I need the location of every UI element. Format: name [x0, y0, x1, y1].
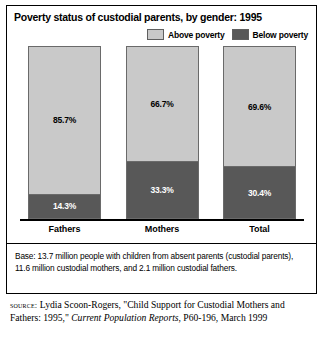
base-note: Base: 13.7 million people with children … [15, 251, 308, 274]
bar-value-fathers-below: 14.3% [53, 201, 76, 211]
source-publication-title: Current Population Reports [71, 312, 178, 323]
legend-label-above-poverty: Above poverty [168, 30, 224, 40]
bar-value-mothers-below: 33.3% [150, 185, 173, 195]
category-label-total: Total [223, 224, 296, 234]
axis-baseline [20, 219, 304, 221]
bar-value-total-above: 69.6% [248, 102, 271, 112]
bar-group: 85.7% 14.3% 66.7% 33.3% 69 [28, 46, 296, 219]
bar-mothers: 66.7% 33.3% [126, 46, 199, 219]
note-divider [7, 243, 316, 244]
bar-total: 69.6% 30.4% [223, 46, 296, 219]
bar-segment-fathers-above: 85.7% [29, 47, 100, 194]
bar-segment-total-above: 69.6% [224, 47, 295, 166]
chart-panel: Poverty status of custodial parents, by … [6, 5, 317, 294]
legend-label-below-poverty: Below poverty [253, 30, 309, 40]
category-axis-labels: Fathers Mothers Total [28, 224, 296, 234]
bar-fathers: 85.7% 14.3% [28, 46, 101, 219]
source-kicker: source: [10, 300, 37, 310]
category-label-mothers: Mothers [126, 224, 199, 234]
bar-value-mothers-above: 66.7% [150, 99, 173, 109]
bar-segment-mothers-below: 33.3% [127, 161, 198, 218]
bar-value-total-below: 30.4% [248, 188, 271, 198]
chart-legend: Above poverty Below poverty [147, 29, 308, 40]
bar-segment-mothers-above: 66.7% [127, 47, 198, 161]
bar-segment-fathers-below: 14.3% [29, 194, 100, 218]
legend-swatch-above-poverty [147, 29, 164, 40]
source-text-after: , P60-196, March 1999 [179, 312, 268, 323]
source-citation: source: Lydia Scoon-Rogers, "Child Suppo… [10, 299, 310, 324]
legend-entry-above-poverty: Above poverty [147, 29, 224, 40]
bar-value-fathers-above: 85.7% [53, 115, 76, 125]
legend-entry-below-poverty: Below poverty [232, 29, 309, 40]
figure-container: Poverty status of custodial parents, by … [0, 0, 323, 350]
page-title: Poverty status of custodial parents, by … [14, 11, 262, 23]
bar-segment-total-below: 30.4% [224, 166, 295, 218]
legend-swatch-below-poverty [232, 29, 249, 40]
category-label-fathers: Fathers [28, 224, 101, 234]
plot-area: 85.7% 14.3% 66.7% 33.3% 69 [7, 46, 316, 186]
